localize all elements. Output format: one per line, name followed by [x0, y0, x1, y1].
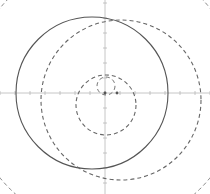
focus-point [116, 92, 119, 95]
circles-diagram [0, 0, 210, 194]
dashed-large-circle [41, 20, 201, 180]
diagram-canvas [0, 0, 210, 194]
dashed-medium-circle [76, 75, 136, 135]
origin-point [104, 92, 107, 95]
